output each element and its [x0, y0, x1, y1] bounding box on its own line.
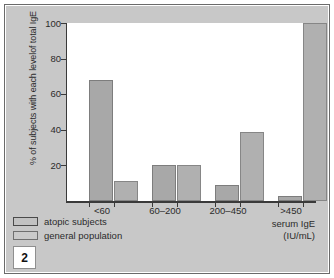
general-swatch-icon — [13, 231, 38, 240]
x-axis-title-line1: serum IgE — [227, 218, 315, 230]
y-tick-label-20: 20 — [27, 161, 61, 170]
bar-general-60-200 — [177, 165, 201, 201]
y-tick-label-100: 100 — [27, 19, 61, 28]
legend: atopic subjects general population — [13, 215, 122, 243]
y-tick-label-40: 40 — [27, 125, 61, 134]
x-tick-label-200-450: 200–450 — [193, 205, 263, 216]
bar-atopic-60-200 — [152, 165, 176, 201]
x-tick-label-60-200: 60–200 — [130, 205, 200, 216]
legend-item-atopic-subjects: atopic subjects — [13, 215, 122, 228]
plot-area — [67, 23, 315, 201]
bar-general-200-450 — [240, 132, 264, 201]
bar-general-lt60 — [114, 181, 138, 201]
x-axis-title: serum IgE (IU/mL) — [227, 218, 315, 242]
x-tick-label-gt450: >450 — [256, 205, 326, 216]
bar-atopic-gt450 — [278, 196, 302, 201]
bar-atopic-lt60 — [89, 80, 113, 201]
legend-item-general-population: general population — [13, 229, 122, 242]
figure-panel: % of subjects with each levelof total Ig… — [4, 4, 330, 274]
bar-atopic-200-450 — [215, 185, 239, 201]
y-tick-label-80: 80 — [27, 54, 61, 63]
atopic-swatch-icon — [13, 217, 38, 226]
bar-general-gt450 — [303, 23, 327, 201]
legend-label-general-population: general population — [44, 230, 122, 241]
x-axis-title-line2: (IU/mL) — [227, 230, 315, 242]
legend-label-atopic-subjects: atopic subjects — [44, 216, 107, 227]
figure-number-badge: 2 — [13, 246, 36, 269]
y-tick-label-60: 60 — [27, 89, 61, 98]
